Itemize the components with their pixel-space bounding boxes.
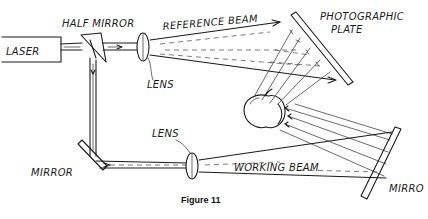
beam-laser-to-halfmirror — [61, 43, 82, 50]
lens-top-label: LENS — [147, 79, 174, 90]
lens-bottom-label: LENS — [152, 128, 179, 139]
mirror-left-label: MIRROR — [31, 167, 73, 178]
reference-beam-label: REFERENCE BEAM — [162, 13, 258, 32]
plate-label-line1: PHOTOGRAPHIC — [320, 11, 404, 22]
laser-label: LASER — [6, 46, 40, 57]
mirror-right-label: MIRRO — [389, 183, 424, 194]
lens-working: LENS — [152, 128, 198, 179]
mirror-right: MIRRO — [361, 127, 424, 199]
beam-halfmirror-to-lens — [103, 43, 137, 50]
beam-mirror-to-lens — [96, 161, 188, 168]
lens-reference: LENS — [137, 33, 174, 90]
figure-caption: Figure 11 — [181, 195, 221, 205]
beam-halfmirror-to-mirror — [90, 58, 96, 156]
object-apple — [244, 89, 285, 128]
holography-diagram: LASER HALF MIRROR LENS REFERENCE BEAM — [0, 0, 428, 219]
half-mirror-label: HALF MIRROR — [62, 18, 134, 29]
photographic-plate: PHOTOGRAPHIC PLATE — [291, 11, 404, 85]
half-mirror: HALF MIRROR — [62, 18, 134, 62]
working-beam-label: WORKING BEAM — [234, 162, 319, 173]
plate-label-line2: PLATE — [331, 24, 363, 35]
laser: LASER — [2, 37, 61, 62]
